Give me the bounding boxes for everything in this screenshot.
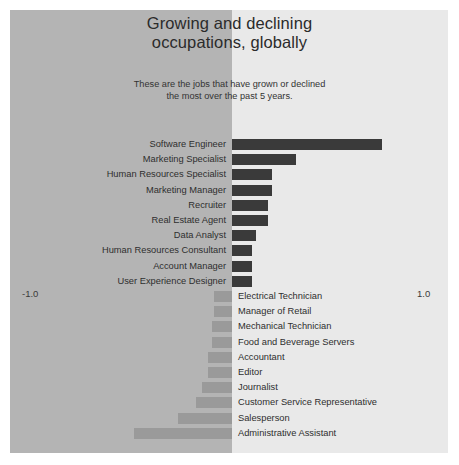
bar-label: Editor: [238, 367, 262, 378]
axis-tick-max: 1.0: [417, 288, 430, 299]
bar-positive: [232, 154, 296, 165]
bar-label: Recruiter: [188, 200, 226, 211]
bar-negative: [214, 306, 232, 317]
bar-positive: [232, 261, 252, 272]
bar-row: Food and Beverage Servers: [0, 337, 459, 348]
bar-row: Recruiter: [0, 200, 459, 211]
bar-positive: [232, 200, 268, 211]
bar-label: Customer Service Representative: [238, 397, 377, 408]
bar-negative: [196, 397, 232, 408]
bar-label: Administrative Assistant: [238, 428, 336, 439]
bar-label: Marketing Specialist: [143, 154, 226, 165]
bar-positive: [232, 215, 268, 226]
bar-row: Marketing Manager: [0, 185, 459, 196]
bar-negative: [208, 352, 232, 363]
bar-negative: [202, 382, 232, 393]
bar-row: Mechanical Technician: [0, 321, 459, 332]
bar-negative: [134, 428, 232, 439]
bar-row: Administrative Assistant: [0, 428, 459, 439]
bar-row: Software Engineer: [0, 139, 459, 150]
bar-label: Real Estate Agent: [152, 215, 226, 226]
bar-label: Data Analyst: [174, 230, 226, 241]
bar-label: Account Manager: [153, 261, 226, 272]
bar-label: Marketing Manager: [146, 185, 226, 196]
bar-row: Marketing Specialist: [0, 154, 459, 165]
bar-negative: [214, 291, 232, 302]
bar-positive: [232, 139, 382, 150]
bar-row: Data Analyst: [0, 230, 459, 241]
bar-label: Human Resources Consultant: [102, 245, 226, 256]
bar-negative: [208, 367, 232, 378]
bar-negative: [212, 337, 232, 348]
bar-row: User Experience Designer: [0, 276, 459, 287]
bar-positive: [232, 230, 256, 241]
bar-row: Customer Service Representative: [0, 397, 459, 408]
bar-label: Manager of Retail: [238, 306, 311, 317]
bar-label: Salesperson: [238, 413, 290, 424]
chart-image: Growing and declining occupations, globa…: [0, 0, 459, 465]
bar-plot: Software EngineerMarketing SpecialistHum…: [0, 0, 459, 465]
bar-label: Mechanical Technician: [238, 321, 331, 332]
bar-negative: [178, 413, 232, 424]
bar-label: Human Resources Specialist: [107, 169, 226, 180]
bar-positive: [232, 185, 272, 196]
bar-label: Software Engineer: [150, 139, 227, 150]
bar-positive: [232, 245, 252, 256]
bar-row: Manager of Retail: [0, 306, 459, 317]
bar-row: Human Resources Specialist: [0, 169, 459, 180]
bar-label: Journalist: [238, 382, 278, 393]
bar-row: Editor: [0, 367, 459, 378]
bar-row: Accountant: [0, 352, 459, 363]
axis-tick-min: -1.0: [22, 288, 38, 299]
bar-row: Salesperson: [0, 413, 459, 424]
bar-label: Electrical Technician: [238, 291, 322, 302]
bar-row: Human Resources Consultant: [0, 245, 459, 256]
bar-label: Food and Beverage Servers: [238, 337, 354, 348]
bar-row: Account Manager: [0, 261, 459, 272]
bar-label: User Experience Designer: [117, 276, 226, 287]
bar-negative: [212, 321, 232, 332]
bar-row: Electrical Technician: [0, 291, 459, 302]
bar-row: Journalist: [0, 382, 459, 393]
bar-positive: [232, 276, 252, 287]
bar-positive: [232, 169, 272, 180]
bar-label: Accountant: [238, 352, 285, 363]
bar-row: Real Estate Agent: [0, 215, 459, 226]
